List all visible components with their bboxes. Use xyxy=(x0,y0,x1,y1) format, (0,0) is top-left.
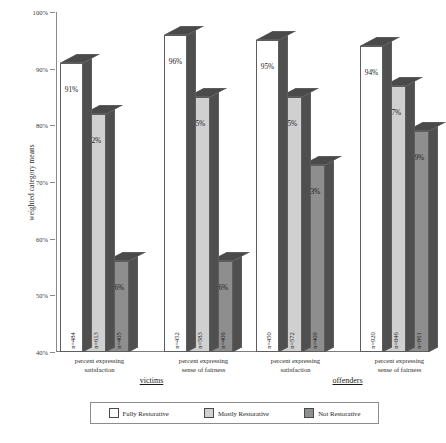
legend-item[interactable]: Fully Restorative xyxy=(109,408,169,418)
bar-top-face xyxy=(360,37,400,46)
bar-n-label: n=405 xyxy=(114,332,121,349)
bar-side-face xyxy=(383,41,392,352)
plot-area: 91%n=48482%n=61356%n=40596%n=45285%n=583… xyxy=(56,12,430,352)
bar-front-face xyxy=(164,35,187,352)
bar-n-label: n=861 xyxy=(414,332,421,349)
x-axis-category-label: percent expressingsatisfaction xyxy=(248,356,343,374)
bar-cluster: 94%n=92087%n=84679%n=861 xyxy=(360,12,439,352)
legend-swatch-icon xyxy=(204,408,214,418)
legend-item[interactable]: Mostly Restorative xyxy=(204,408,269,418)
bar-value-label: 94% xyxy=(360,68,383,77)
group-label-victims: victims xyxy=(60,376,243,385)
bar-n-label: n=406 xyxy=(218,332,225,349)
y-axis-tick xyxy=(50,239,55,240)
bar: 91%n=484 xyxy=(60,63,83,352)
bar-front-face xyxy=(360,46,383,352)
x-axis-category-label-line1: percent expressing xyxy=(52,356,147,365)
chart-legend: Fully RestorativeMostly RestorativeNot R… xyxy=(90,402,379,424)
bar-n-label: n=613 xyxy=(91,332,98,349)
bar-n-label: n=572 xyxy=(287,332,294,349)
group-label-offenders: offenders xyxy=(256,376,439,385)
y-axis-tick xyxy=(50,352,55,353)
legend-swatch-icon xyxy=(109,408,119,418)
bar: 95%n=450 xyxy=(256,40,279,352)
bar-front-face xyxy=(256,40,279,352)
bar-value-label: 91% xyxy=(60,85,83,94)
x-axis-category-label-line1: percent expressing xyxy=(352,356,446,365)
x-axis-category-label: percent expressingsense of fairness xyxy=(156,356,251,374)
y-axis-tick-label: 90% xyxy=(36,65,48,72)
y-axis-tick xyxy=(50,295,55,296)
bar-side-face xyxy=(210,92,219,352)
y-axis-tick-label: 80% xyxy=(36,122,48,129)
x-axis-category-label: percent expressingsense of fairness xyxy=(352,356,446,374)
x-axis-category-label-line1: percent expressing xyxy=(248,356,343,365)
bar-value-label: 95% xyxy=(256,62,279,71)
bar-value-label: 96% xyxy=(164,57,187,66)
x-axis-category-label-line2: satisfaction xyxy=(52,365,147,374)
x-axis-category-label-line2: sense of fairness xyxy=(352,365,446,374)
bar-cluster: 96%n=45285%n=58356%n=406 xyxy=(164,12,243,352)
bar-side-face xyxy=(429,126,438,352)
y-axis-tick xyxy=(50,12,55,13)
bar-n-label: n=583 xyxy=(195,332,202,349)
y-axis-tick-label: 50% xyxy=(36,292,48,299)
y-axis-tick xyxy=(50,182,55,183)
bar-cluster: 91%n=48482%n=61356%n=405 xyxy=(60,12,139,352)
y-axis-tick xyxy=(50,69,55,70)
bar-top-face xyxy=(60,54,100,63)
bar-side-face xyxy=(233,257,242,352)
y-axis-tick-label: 40% xyxy=(36,349,48,356)
bar-side-face xyxy=(106,109,115,352)
bar-front-face xyxy=(60,63,83,352)
bar-n-label: n=846 xyxy=(391,332,398,349)
legend-label: Fully Restorative xyxy=(123,410,169,417)
bar-side-face xyxy=(83,58,92,352)
legend-label: Mostly Restorative xyxy=(218,410,269,417)
x-axis-category-label-line1: percent expressing xyxy=(156,356,251,365)
bar-side-face xyxy=(187,30,196,352)
bar: 96%n=452 xyxy=(164,35,187,352)
bar-side-face xyxy=(302,92,311,352)
bar-top-face xyxy=(256,31,296,40)
bar-top-face xyxy=(164,26,204,35)
bar-side-face xyxy=(406,81,415,352)
bar-n-label: n=450 xyxy=(264,332,271,349)
bar-n-label: n=452 xyxy=(172,332,179,349)
figure-3d-bar-chart: weighted category means 100%90%80%70%60%… xyxy=(0,0,446,443)
bar-side-face xyxy=(325,160,334,352)
y-axis-tick-label: 60% xyxy=(36,235,48,242)
y-axis-tick xyxy=(50,125,55,126)
bar-side-face xyxy=(129,257,138,352)
legend-item[interactable]: Not Restorative xyxy=(304,408,360,418)
y-axis-title: weighted category means xyxy=(27,98,36,268)
bar-cluster: 95%n=45085%n=57273%n=409 xyxy=(256,12,335,352)
bar-n-label: n=920 xyxy=(368,332,375,349)
bar-side-face xyxy=(279,36,288,352)
x-axis-category-label-line2: sense of fairness xyxy=(156,365,251,374)
legend-swatch-icon xyxy=(304,408,314,418)
y-axis-tick-label: 70% xyxy=(36,179,48,186)
bar: 94%n=920 xyxy=(360,46,383,352)
y-axis-tick-label: 100% xyxy=(33,9,48,16)
legend-label: Not Restorative xyxy=(318,410,360,417)
bar-n-label: n=484 xyxy=(68,332,75,349)
bar-n-label: n=409 xyxy=(310,332,317,349)
x-axis-category-label: percent expressingsatisfaction xyxy=(52,356,147,374)
x-axis-category-label-line2: satisfaction xyxy=(248,365,343,374)
